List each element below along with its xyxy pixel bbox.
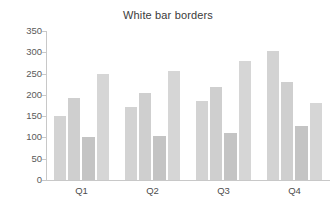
bar — [309, 103, 323, 180]
bar — [223, 133, 237, 180]
y-axis-tick-label: 100 — [6, 133, 42, 143]
y-axis-tick-label: 50 — [6, 154, 42, 164]
y-axis-tick-mark — [42, 116, 46, 117]
y-axis-tick-label: 350 — [6, 26, 42, 36]
plot-area — [46, 31, 330, 180]
y-axis-tick-label: 150 — [6, 111, 42, 121]
bar — [152, 136, 166, 180]
bar — [138, 93, 152, 180]
y-axis-tick-mark — [42, 180, 46, 181]
bar — [67, 98, 81, 180]
y-axis-tick-mark — [42, 95, 46, 96]
bar-group — [195, 31, 252, 180]
bar — [124, 107, 138, 180]
bar — [81, 137, 95, 180]
bar-group — [124, 31, 181, 180]
bar — [96, 74, 110, 180]
y-axis-tick-mark — [42, 137, 46, 138]
bar — [280, 82, 294, 180]
bar — [238, 61, 252, 180]
y-axis-tick-label: 0 — [6, 175, 42, 185]
bar-group — [266, 31, 323, 180]
bar — [266, 51, 280, 180]
y-axis-tick-mark — [42, 74, 46, 75]
x-axis-tick-label: Q1 — [53, 186, 110, 196]
bar — [294, 126, 308, 180]
y-axis-tick-label: 250 — [6, 69, 42, 79]
y-axis-tick-mark — [42, 31, 46, 32]
y-axis-tick-mark — [42, 159, 46, 160]
y-axis-tick-mark — [42, 52, 46, 53]
bar — [53, 116, 67, 180]
x-axis-tick-label: Q4 — [266, 186, 323, 196]
bar — [167, 71, 181, 180]
y-axis-tick-label: 300 — [6, 48, 42, 58]
x-axis-tick-label: Q2 — [124, 186, 181, 196]
chart-title: White bar borders — [0, 9, 336, 21]
x-axis-line — [46, 180, 330, 181]
y-axis-tick-label: 200 — [6, 90, 42, 100]
x-axis-tick-label: Q3 — [195, 186, 252, 196]
bar-chart: White bar borders 050100150200250300350 … — [0, 0, 336, 207]
bar-group — [53, 31, 110, 180]
y-axis-tick-labels: 050100150200250300350 — [0, 0, 42, 207]
bar — [195, 101, 209, 180]
bar — [209, 87, 223, 180]
